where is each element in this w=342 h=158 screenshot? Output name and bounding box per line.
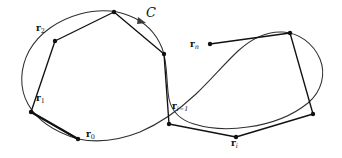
figure-container: C r0 r1 r2 ri−1 ri rn bbox=[0, 0, 342, 158]
vertex-marker bbox=[167, 122, 171, 126]
label-rn-subscript: n bbox=[195, 43, 199, 51]
label-r1: r1 bbox=[36, 94, 45, 104]
orientation-arrow-icon bbox=[137, 17, 146, 24]
label-ri-minus-1-subscript: i−1 bbox=[177, 105, 189, 113]
segment-r0-r1 bbox=[31, 112, 78, 139]
label-r2: r2 bbox=[36, 24, 45, 34]
label-r1-subscript: 1 bbox=[41, 97, 45, 105]
curve-c-path bbox=[22, 11, 323, 141]
vertex-marker bbox=[112, 10, 116, 14]
vertex-marker bbox=[311, 112, 315, 116]
vertex-marker bbox=[76, 137, 80, 141]
inscribed-polygon-path bbox=[31, 12, 313, 139]
label-r2-subscript: 2 bbox=[41, 27, 45, 35]
label-rn: rn bbox=[190, 40, 199, 50]
label-curve-c: C bbox=[146, 6, 156, 19]
vertex-marker bbox=[288, 31, 292, 35]
label-r0-subscript: 0 bbox=[91, 133, 95, 141]
label-r0: r0 bbox=[86, 130, 95, 140]
vertex-marker bbox=[208, 42, 212, 46]
label-ri-minus-1: ri−1 bbox=[172, 102, 188, 112]
label-curve-c-text: C bbox=[146, 5, 156, 20]
vertex-marker bbox=[53, 39, 57, 43]
curve-diagram-svg bbox=[0, 0, 342, 158]
vertex-marker bbox=[162, 52, 166, 56]
vertex-marker bbox=[29, 110, 33, 114]
label-ri-subscript: i bbox=[236, 142, 238, 150]
label-ri: ri bbox=[231, 139, 238, 149]
